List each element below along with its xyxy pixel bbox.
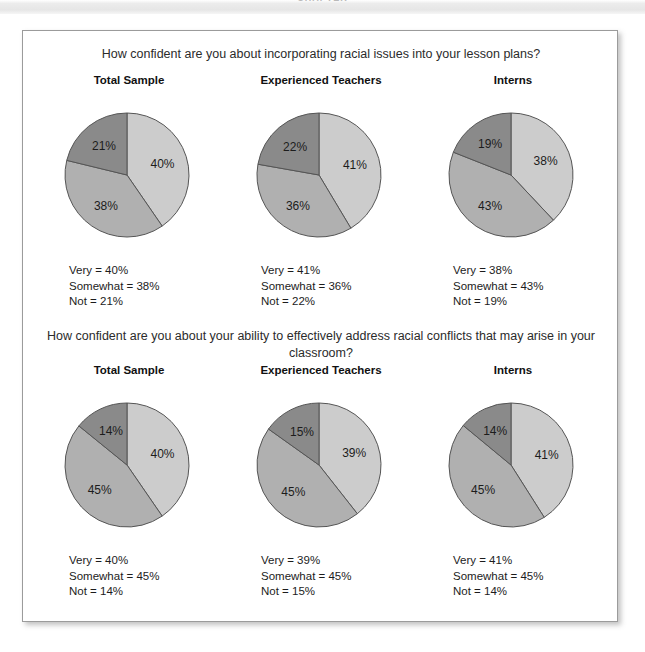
- pie-panel-5: Interns 41%45%14% Very = 41%Somewhat = 4…: [417, 363, 609, 600]
- legend-line: Very = 38%: [453, 263, 609, 279]
- legend-line: Somewhat = 36%: [261, 279, 417, 295]
- legend-line: Very = 41%: [453, 553, 609, 569]
- pie-chart-2: 38%43%19%: [417, 103, 609, 257]
- pie-slice-value-label: 41%: [343, 158, 367, 172]
- pie-chart-0: 40%38%21%: [33, 103, 225, 257]
- pie-slice-value-label: 38%: [534, 154, 558, 168]
- legend-line: Somewhat = 38%: [69, 279, 225, 295]
- pie-legend-1: Very = 41%Somewhat = 36%Not = 22%: [225, 257, 417, 310]
- pie-panel-3: Total Sample 40%45%14% Very = 40%Somewha…: [33, 363, 225, 600]
- pie-slice-value-label: 36%: [286, 199, 310, 213]
- figure-container: How confident are you about incorporatin…: [22, 30, 618, 622]
- panel-title: Total Sample: [33, 73, 225, 103]
- legend-line: Somewhat = 45%: [69, 569, 225, 585]
- question-heading-1: How confident are you about incorporatin…: [41, 46, 601, 63]
- pie-legend-5: Very = 41%Somewhat = 45%Not = 14%: [417, 547, 609, 600]
- legend-line: Not = 21%: [69, 294, 225, 310]
- pie-svg: 40%38%21%: [59, 107, 199, 247]
- pie-svg: 38%43%19%: [443, 107, 583, 247]
- panel-title: Experienced Teachers: [225, 73, 417, 103]
- pie-legend-2: Very = 38%Somewhat = 43%Not = 19%: [417, 257, 609, 310]
- pie-chart-5: 41%45%14%: [417, 393, 609, 547]
- legend-line: Very = 41%: [261, 263, 417, 279]
- pie-chart-3: 40%45%14%: [33, 393, 225, 547]
- legend-line: Not = 14%: [69, 584, 225, 600]
- pie-legend-0: Very = 40%Somewhat = 38%Not = 21%: [33, 257, 225, 310]
- pie-chart-1: 41%36%22%: [225, 103, 417, 257]
- page-header-band: CHAPTER: [0, 0, 645, 14]
- pie-slice-value-label: 15%: [290, 425, 314, 439]
- pie-panel-2: Interns 38%43%19% Very = 38%Somewhat = 4…: [417, 73, 609, 310]
- pie-panel-4: Experienced Teachers 39%45%15% Very = 39…: [225, 363, 417, 600]
- pie-svg: 39%45%15%: [251, 397, 391, 537]
- pie-row-1: Total Sample 40%38%21% Very = 40%Somewha…: [33, 73, 609, 310]
- pie-panel-1: Experienced Teachers 41%36%22% Very = 41…: [225, 73, 417, 310]
- legend-line: Very = 40%: [69, 263, 225, 279]
- pie-svg: 41%45%14%: [443, 397, 583, 537]
- legend-line: Not = 14%: [453, 584, 609, 600]
- pie-slice-value-label: 41%: [535, 448, 559, 462]
- panel-title: Interns: [417, 363, 609, 393]
- pie-slice-value-label: 38%: [94, 199, 118, 213]
- pie-svg: 40%45%14%: [59, 397, 199, 537]
- pie-slice-value-label: 45%: [471, 483, 495, 497]
- pie-row-2: Total Sample 40%45%14% Very = 40%Somewha…: [33, 363, 609, 600]
- pie-slice-value-label: 14%: [99, 424, 123, 438]
- pie-svg: 41%36%22%: [251, 107, 391, 247]
- legend-line: Somewhat = 43%: [453, 279, 609, 295]
- pie-slice-value-label: 40%: [150, 157, 174, 171]
- clipped-running-head: CHAPTER: [0, 0, 645, 3]
- pie-slice-value-label: 14%: [483, 424, 507, 438]
- legend-line: Not = 22%: [261, 294, 417, 310]
- panel-title: Total Sample: [33, 363, 225, 393]
- pie-slice-value-label: 45%: [88, 483, 112, 497]
- panel-title: Interns: [417, 73, 609, 103]
- pie-slice-value-label: 22%: [283, 140, 307, 154]
- pie-panel-0: Total Sample 40%38%21% Very = 40%Somewha…: [33, 73, 225, 310]
- legend-line: Not = 19%: [453, 294, 609, 310]
- pie-slice-value-label: 45%: [281, 485, 305, 499]
- pie-slice-value-label: 21%: [92, 139, 116, 153]
- pie-slice-value-label: 19%: [478, 137, 502, 151]
- pie-slice-value-label: 43%: [478, 199, 502, 213]
- legend-line: Somewhat = 45%: [453, 569, 609, 585]
- legend-line: Very = 39%: [261, 553, 417, 569]
- pie-chart-4: 39%45%15%: [225, 393, 417, 547]
- legend-line: Somewhat = 45%: [261, 569, 417, 585]
- pie-slice-value-label: 40%: [150, 447, 174, 461]
- pie-slice-value-label: 39%: [342, 446, 366, 460]
- pie-legend-4: Very = 39%Somewhat = 45%Not = 15%: [225, 547, 417, 600]
- question-heading-2: How confident are you about your ability…: [41, 328, 601, 362]
- pie-legend-3: Very = 40%Somewhat = 45%Not = 14%: [33, 547, 225, 600]
- legend-line: Very = 40%: [69, 553, 225, 569]
- legend-line: Not = 15%: [261, 584, 417, 600]
- panel-title: Experienced Teachers: [225, 363, 417, 393]
